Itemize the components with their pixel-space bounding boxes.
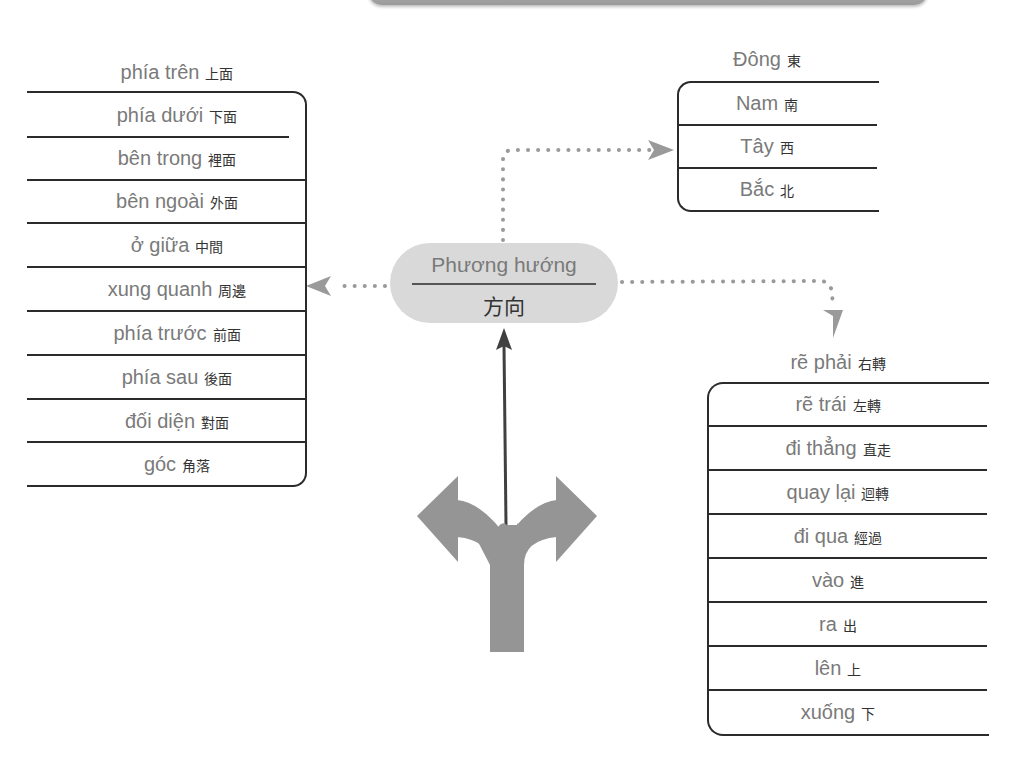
list-header: Đông東 xyxy=(677,48,857,71)
list-item: đối diện對面 xyxy=(47,400,307,443)
list-item: bên trong裡面 xyxy=(47,137,307,180)
arrowhead-right-icon xyxy=(648,140,674,160)
compass-direction-list: Đông東 Nam南 Tây西 Bắc北 xyxy=(677,48,857,218)
list-item: ở giữa中間 xyxy=(47,224,307,267)
connector-to-movement xyxy=(622,281,833,308)
center-topic-node: Phương hướng 方向 xyxy=(390,243,618,323)
list-item: góc角落 xyxy=(47,443,307,486)
list-item: vào進 xyxy=(707,559,969,602)
list-item: bên ngoài外面 xyxy=(47,180,307,223)
list-item: Tây西 xyxy=(677,125,857,168)
list-item: đi qua經過 xyxy=(707,515,969,558)
list-item: xuống下 xyxy=(707,691,969,734)
list-item: quay lại迴轉 xyxy=(707,471,969,514)
list-item: Bắc北 xyxy=(677,168,857,211)
position-word-list: phía trên上面 phía dưới下面 bên trong裡面 bên … xyxy=(47,60,307,490)
list-header: rẽ phải右轉 xyxy=(707,351,969,374)
list-item: Nam南 xyxy=(677,82,857,125)
list-item: phía sau後面 xyxy=(47,356,307,399)
list-item: rẽ trái左轉 xyxy=(707,383,969,426)
list-header: phía trên上面 xyxy=(47,61,307,84)
list-item: lên上 xyxy=(707,647,969,690)
list-item: phía trước前面 xyxy=(47,312,307,355)
list-item: phía dưới下面 xyxy=(47,94,307,137)
list-item: đi thẳng直走 xyxy=(707,427,969,470)
center-title-zh: 方向 xyxy=(390,290,618,320)
center-title-vi: Phương hướng xyxy=(390,253,618,277)
movement-word-list: rẽ phải右轉 rẽ trái左轉 đi thẳng直走 quay lại迴… xyxy=(707,350,969,750)
arrowhead-left-icon xyxy=(306,276,331,296)
connector-to-compass xyxy=(503,150,650,240)
center-divider xyxy=(412,283,596,285)
arrowhead-down-icon xyxy=(823,310,843,338)
list-item: ra出 xyxy=(707,603,969,646)
list-item: xung quanh周邊 xyxy=(47,268,307,311)
